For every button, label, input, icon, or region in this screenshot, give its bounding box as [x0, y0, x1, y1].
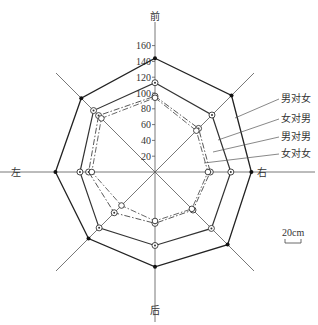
scale-bar — [285, 239, 301, 243]
data-point — [89, 169, 95, 175]
radial-tick-label: 40 — [141, 135, 151, 146]
direction-label: 右 — [257, 166, 267, 178]
data-point — [87, 236, 91, 240]
data-point — [153, 56, 157, 60]
radial-tick-label: 60 — [141, 119, 151, 130]
legend-label: 女对男 — [281, 112, 311, 124]
axis-line — [56, 172, 155, 271]
radial-tick-label: 160 — [136, 40, 151, 51]
data-point — [152, 218, 158, 224]
legend-label: 女对女 — [281, 147, 311, 159]
axis-line — [155, 172, 254, 271]
data-point — [53, 170, 57, 174]
data-point — [153, 265, 157, 269]
radial-tick-label: 80 — [141, 103, 151, 114]
series-0 — [53, 56, 253, 269]
radial-tick-label: 20 — [141, 151, 151, 162]
data-point — [99, 116, 105, 122]
data-point — [230, 93, 234, 97]
legend-label: 男对男 — [281, 130, 311, 142]
data-point — [249, 170, 253, 174]
data-point — [226, 243, 230, 247]
data-point — [194, 128, 200, 134]
scale-bar-label: 20cm — [282, 227, 304, 238]
radial-tick-label: 100 — [136, 88, 151, 99]
direction-label: 左 — [11, 166, 21, 178]
data-point — [152, 95, 158, 101]
radar-chart: 20406080100120140160前右后左男对女女对男男对男女对女20cm — [0, 0, 318, 325]
data-point — [189, 206, 195, 212]
data-point — [119, 203, 125, 209]
data-point — [79, 96, 83, 100]
data-point — [205, 169, 211, 175]
legend-label: 男对女 — [281, 92, 311, 104]
radial-tick-label: 120 — [136, 72, 151, 83]
direction-label: 前 — [150, 10, 160, 22]
direction-label: 后 — [150, 305, 160, 316]
